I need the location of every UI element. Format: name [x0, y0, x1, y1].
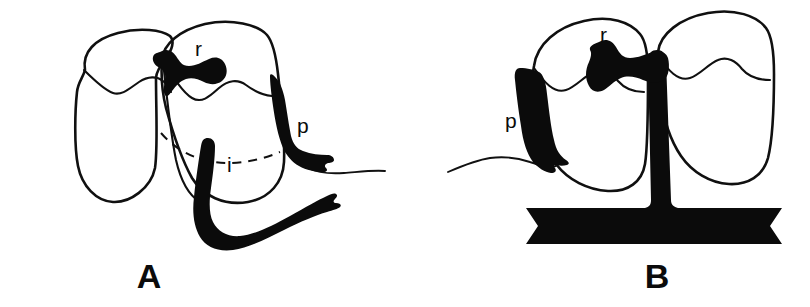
panel-b-caption-letter: B [645, 257, 670, 295]
panel-a-caption-letter: A [137, 257, 162, 295]
panel-b-base-bar [526, 208, 782, 244]
figure-root: r p i A [0, 0, 810, 307]
figure-background [0, 0, 810, 307]
panel-b-label-r: r [600, 23, 607, 46]
panel-a-label-i: i [227, 153, 232, 176]
panel-a-label-p: p [297, 114, 309, 137]
panel-b-label-p: p [505, 109, 517, 132]
tooth-restoration-figure: r p i A [0, 0, 810, 307]
panel-a-label-r: r [195, 37, 202, 60]
